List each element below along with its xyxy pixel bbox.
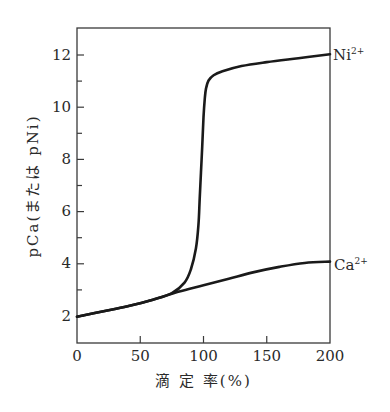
- x-tick-0: 0: [72, 347, 82, 365]
- x-axis-ticks: [140, 336, 267, 343]
- y-tick-12: 12: [52, 46, 71, 64]
- x-tick-labels: 0 50 100 150 200: [72, 347, 344, 365]
- y-axis-ticks: [77, 55, 84, 316]
- y-tick-labels: 12 10 8 6 4 2: [52, 46, 71, 325]
- titration-chart: 12 10 8 6 4 2 0 50 100 150 200 滴 定 率(%) …: [0, 0, 390, 412]
- ca-titration-curve: [77, 262, 330, 317]
- ni-label-text: Ni: [333, 46, 351, 64]
- ca-label-sup: 2+: [354, 256, 367, 266]
- x-tick-50: 50: [131, 347, 150, 365]
- x-tick-100: 100: [189, 347, 218, 365]
- y-tick-6: 6: [61, 202, 71, 220]
- plot-frame: [77, 28, 330, 343]
- ni-label-sup: 2+: [351, 46, 364, 56]
- y-axis-title: pCa(または pNi): [24, 114, 42, 257]
- ni-titration-curve: [77, 54, 330, 317]
- ca-label-text: Ca: [334, 256, 354, 274]
- ca-series-label: Ca2+: [334, 256, 368, 274]
- x-tick-150: 150: [252, 347, 281, 365]
- y-tick-10: 10: [52, 98, 71, 116]
- x-tick-200: 200: [316, 347, 345, 365]
- y-tick-8: 8: [61, 150, 71, 168]
- y-tick-4: 4: [61, 254, 71, 272]
- y-tick-2: 2: [61, 307, 71, 325]
- x-axis-title: 滴 定 率(%): [155, 372, 252, 390]
- ni-series-label: Ni2+: [333, 46, 364, 64]
